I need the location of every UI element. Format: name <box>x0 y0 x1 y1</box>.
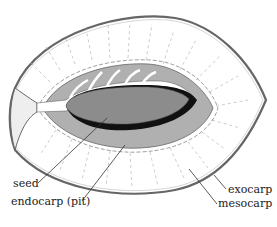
label-mesocarp: mesocarp <box>218 198 272 210</box>
label-exocarp: exocarp <box>228 184 272 196</box>
label-seed: seed <box>13 178 39 190</box>
drupe-diagram: seed endocarp (pit) exocarp mesocarp <box>0 0 277 227</box>
label-endocarp: endocarp (pit) <box>11 196 90 208</box>
